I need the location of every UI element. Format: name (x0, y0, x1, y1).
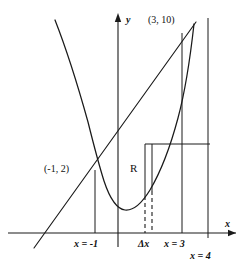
y-axis-label: y (126, 14, 130, 25)
y-axis-arrowhead (115, 13, 121, 22)
figure-canvas (0, 0, 244, 265)
point-label-neg1-2: (-1, 2) (44, 163, 69, 174)
secant-line (34, 22, 196, 248)
tick-label-delta-x: Δx (138, 238, 149, 249)
x-axis-label: x (225, 218, 230, 229)
calculus-region-figure: y x (3, 10) (-1, 2) R x = -1 Δx x = 3 x … (0, 0, 244, 265)
region-label-R: R (130, 162, 137, 174)
x-axis-arrowhead (228, 230, 236, 236)
tick-label-x-4: x = 4 (190, 250, 211, 261)
x-axis (8, 230, 236, 236)
point-label-3-10: (3, 10) (148, 14, 175, 25)
parabola-curve (55, 20, 194, 210)
tick-label-x-3: x = 3 (164, 238, 185, 249)
tick-label-x-neg-1: x = -1 (74, 238, 98, 249)
